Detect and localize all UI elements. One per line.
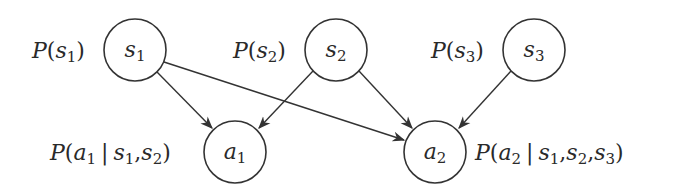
bayesian-network-diagram: s1 P(s1) s2 P(s2) s3 P(s3) a1 P(a1|s1,s2… (0, 0, 685, 189)
node-s3: s3 (503, 19, 565, 81)
prob-label-a2: P(a2|s1,s2,s3) (474, 140, 624, 168)
edge-s2-a2 (359, 71, 412, 128)
prob-label-s3: P(s3) (430, 38, 484, 66)
edge-s3-a2 (459, 71, 511, 128)
prob-label-s2: P(s2) (232, 38, 286, 66)
prob-label-a1: P(a1|s1,s2) (49, 140, 171, 168)
node-a1: a1 (204, 121, 266, 183)
edge-s1-a1 (157, 72, 212, 128)
edge-s2-a1 (259, 71, 313, 128)
node-a2: a2 (404, 121, 466, 183)
node-s1: s1 (104, 19, 166, 81)
prob-label-s1: P(s1) (31, 38, 85, 66)
node-s2: s2 (305, 19, 367, 81)
